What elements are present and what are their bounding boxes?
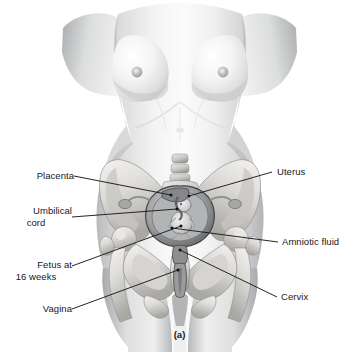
label-umbilical-cord-line-1: Umbilical (0, 205, 72, 217)
label-fetus: Fetus at 16 weeks (0, 259, 76, 282)
label-uterus-line-1: Uterus (277, 166, 305, 178)
label-placenta-line-1: Placenta (0, 170, 74, 182)
label-vagina: Vagina (0, 303, 76, 315)
ovary-right (229, 199, 242, 208)
label-uterus: Uterus (277, 166, 305, 178)
label-umbilical-cord-line-2: cord (0, 217, 72, 229)
label-fetus-line-1: Fetus at (0, 259, 72, 271)
anatomical-figure-pregnancy: Placenta Umbilical cord Fetus at 16 week… (0, 0, 359, 352)
figure-caption: (a) (0, 329, 359, 340)
label-cervix: Cervix (281, 291, 308, 303)
label-cervix-line-1: Cervix (281, 291, 308, 303)
cervix (173, 245, 188, 264)
label-amniotic-fluid: Amniotic fluid (282, 236, 339, 248)
label-umbilical-cord: Umbilical cord (0, 205, 76, 228)
label-vagina-line-1: Vagina (0, 303, 72, 315)
ovary-left (119, 199, 132, 208)
lumbar-vertebrae (170, 154, 190, 182)
label-fetus-line-2: 16 weeks (0, 271, 72, 283)
label-placenta: Placenta (0, 170, 78, 182)
label-amniotic-fluid-line-1: Amniotic fluid (282, 236, 339, 248)
